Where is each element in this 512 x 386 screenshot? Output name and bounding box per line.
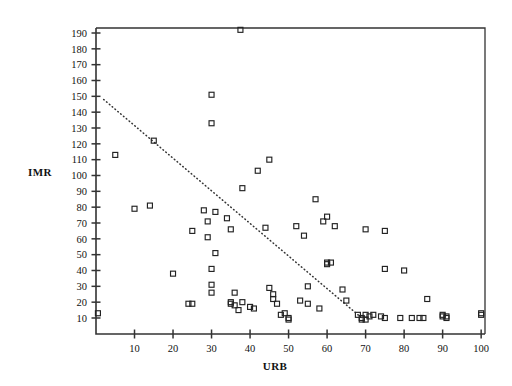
svg-text:90: 90 <box>77 186 88 197</box>
svg-text:70: 70 <box>360 343 371 354</box>
svg-text:130: 130 <box>71 123 87 134</box>
svg-text:150: 150 <box>71 91 87 102</box>
svg-text:120: 120 <box>71 139 87 150</box>
svg-text:50: 50 <box>283 343 294 354</box>
scatter-plot-figure: 1020304050607080901001101201301401501601… <box>0 0 512 386</box>
svg-text:60: 60 <box>77 234 88 245</box>
svg-text:110: 110 <box>72 154 87 165</box>
plot-frame <box>96 28 485 334</box>
svg-text:80: 80 <box>399 343 410 354</box>
svg-text:190: 190 <box>71 28 87 39</box>
svg-text:30: 30 <box>206 343 217 354</box>
svg-text:180: 180 <box>71 44 87 55</box>
svg-text:170: 170 <box>71 59 87 70</box>
svg-text:80: 80 <box>77 202 88 213</box>
svg-text:40: 40 <box>245 343 256 354</box>
svg-text:20: 20 <box>77 297 88 308</box>
axis-ticks <box>92 33 482 339</box>
svg-text:100: 100 <box>473 343 489 354</box>
axis-tick-labels: 1020304050607080901001101201301401501601… <box>71 28 489 354</box>
svg-text:60: 60 <box>322 343 333 354</box>
svg-text:50: 50 <box>77 249 88 260</box>
plot-svg: 1020304050607080901001101201301401501601… <box>0 0 512 386</box>
svg-text:10: 10 <box>129 343 140 354</box>
svg-text:160: 160 <box>71 75 87 86</box>
data-points <box>95 27 483 322</box>
svg-text:30: 30 <box>77 281 88 292</box>
svg-text:20: 20 <box>168 343 179 354</box>
trend-line <box>104 99 362 317</box>
svg-text:90: 90 <box>437 343 448 354</box>
svg-text:10: 10 <box>77 313 88 324</box>
svg-text:70: 70 <box>77 218 88 229</box>
y-axis-label: IMR <box>18 166 62 178</box>
svg-text:100: 100 <box>71 170 87 181</box>
svg-text:40: 40 <box>77 265 88 276</box>
svg-text:140: 140 <box>71 107 87 118</box>
x-axis-label: URB <box>252 360 298 372</box>
